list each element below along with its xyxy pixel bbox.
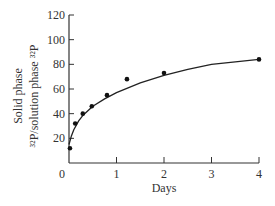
origin-label: 0: [59, 167, 65, 181]
y-tick-label: 120: [47, 8, 65, 22]
chart-canvas: 20406080100120 1234 0 Days Solid phase ³…: [0, 0, 275, 206]
data-point: [90, 104, 95, 109]
data-point: [257, 57, 262, 62]
x-axis-title: Days: [152, 181, 177, 195]
y-tick-label: 20: [53, 131, 65, 145]
data-point: [125, 77, 130, 82]
y-tick-label: 60: [53, 82, 65, 96]
y-ticks: 20406080100120: [47, 8, 74, 145]
y-tick-label: 80: [53, 57, 65, 71]
y-tick-label: 40: [53, 107, 65, 121]
y-axis-title-line1: Solid phase: [11, 68, 25, 124]
x-tick-label: 1: [114, 167, 120, 181]
data-point: [162, 71, 167, 76]
y-tick-label: 100: [47, 33, 65, 47]
x-tick-label: 2: [161, 167, 167, 181]
x-tick-label: 3: [209, 167, 215, 181]
data-point: [73, 121, 78, 126]
data-point: [105, 93, 110, 98]
data-point: [80, 111, 85, 116]
y-axis-title-line2: ³²P/solution phase ³²P: [27, 44, 41, 147]
x-ticks: 1234: [114, 157, 263, 181]
axes: [69, 15, 259, 163]
x-tick-label: 4: [256, 167, 262, 181]
data-point: [68, 146, 73, 151]
